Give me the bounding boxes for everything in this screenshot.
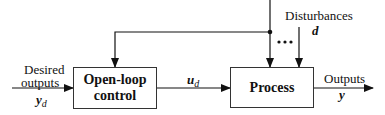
desired-symbol: yd	[36, 93, 47, 109]
feedforward-branch	[115, 32, 270, 67]
disturbances-label: Disturbances	[285, 9, 353, 22]
disturbance-symbol: d	[312, 24, 319, 37]
control-signal-symbol: ud	[187, 73, 199, 89]
outputs-label: Outputs	[324, 72, 365, 85]
open-loop-label-line1: Open-loop	[83, 72, 146, 88]
output-symbol: y	[339, 88, 345, 101]
process-label: Process	[250, 80, 295, 96]
junction-dot	[268, 30, 273, 35]
ellipsis-dot	[277, 40, 280, 43]
desired-label-line2: outputs	[21, 76, 59, 89]
ellipsis-dot	[283, 40, 286, 43]
open-loop-label-line2: control	[83, 88, 146, 104]
open-loop-control-block: Open-loop control	[73, 67, 157, 109]
process-block: Process	[230, 67, 314, 108]
ellipsis-dot	[289, 40, 292, 43]
